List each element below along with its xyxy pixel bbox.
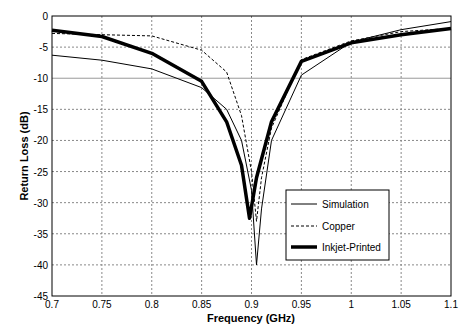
x-tick-label: 0.8: [145, 299, 159, 310]
y-tick-label: -35: [34, 229, 49, 240]
x-tick-label: 0.95: [292, 299, 312, 310]
y-axis-ticks: 0-5-10-15-20-25-30-35-40-45: [34, 11, 49, 302]
legend: Simulation Copper Inkjet-Printed: [286, 190, 389, 260]
return-loss-chart: 0.70.750.80.850.90.9511.051.1 0-5-10-15-…: [0, 0, 473, 335]
y-tick-label: -15: [34, 104, 49, 115]
x-tick-label: 1: [348, 299, 354, 310]
x-axis-ticks: 0.70.750.80.850.90.9511.051.1: [45, 299, 458, 310]
legend-label-copper: Copper: [322, 221, 355, 232]
y-tick-label: -30: [34, 198, 49, 209]
y-tick-label: -25: [34, 167, 49, 178]
grid: [52, 16, 451, 296]
y-axis-label: Return Loss (dB): [18, 111, 30, 201]
x-tick-label: 0.75: [92, 299, 112, 310]
x-tick-label: 0.9: [245, 299, 259, 310]
x-tick-label: 0.85: [192, 299, 212, 310]
y-tick-label: -20: [34, 135, 49, 146]
y-tick-label: 0: [42, 11, 48, 22]
y-tick-label: -40: [34, 260, 49, 271]
x-tick-label: 1.1: [444, 299, 458, 310]
legend-label-simulation: Simulation: [322, 199, 369, 210]
x-axis-label: Frequency (GHz): [207, 312, 295, 324]
x-tick-label: 1.05: [391, 299, 411, 310]
legend-label-inkjet: Inkjet-Printed: [322, 242, 381, 253]
y-tick-label: -5: [39, 42, 48, 53]
y-tick-label: -10: [34, 73, 49, 84]
y-tick-label: -45: [34, 291, 49, 302]
